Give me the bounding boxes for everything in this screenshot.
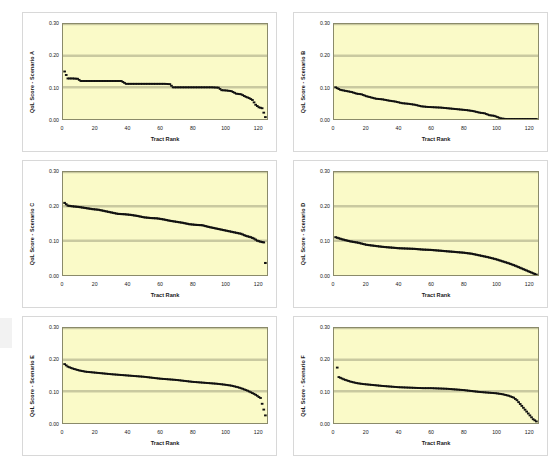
series-canvas: [63, 328, 267, 423]
x-tick-label: 0: [332, 429, 335, 435]
data-point: [264, 116, 267, 118]
x-tick-label: 120: [254, 125, 263, 131]
data-point: [516, 399, 519, 401]
x-tick-label: 120: [525, 281, 534, 287]
y-tick-label: 0.30: [310, 324, 330, 330]
x-tick-label: 120: [254, 281, 263, 287]
plot-wrapper: 0.000.100.200.30020406080100120Tract Ran…: [39, 325, 270, 447]
y-tick-label: 0.10: [39, 389, 59, 395]
panel-inner: QoL Score - Scenario A0.000.100.200.3002…: [23, 13, 276, 151]
data-point: [251, 99, 254, 101]
x-tick-label: 80: [190, 429, 196, 435]
chart-panel-e: QoL Score - Scenario E0.000.100.200.3002…: [22, 316, 277, 456]
data-series: [334, 236, 537, 275]
x-tick-label: 0: [61, 281, 64, 287]
y-tick-label: 0.30: [39, 168, 59, 174]
y-tick-label: 0.30: [310, 20, 330, 26]
data-point: [522, 407, 525, 409]
data-point: [262, 112, 265, 114]
panel-inner: QoL Score - Scenario C0.000.100.200.3002…: [23, 161, 276, 307]
series-canvas: [334, 172, 538, 275]
plot-wrapper: 0.000.100.200.30020406080100120Tract Ran…: [39, 169, 270, 299]
y-tick-label: 0.30: [310, 168, 330, 174]
x-tick-label: 60: [157, 429, 163, 435]
x-axis-label: Tract Rank: [333, 136, 539, 142]
x-tick-label: 100: [492, 281, 501, 287]
x-tick-label: 40: [396, 125, 402, 131]
x-tick-label: 60: [157, 281, 163, 287]
data-point: [520, 405, 523, 407]
x-tick-label: 80: [190, 281, 196, 287]
series-canvas: [334, 328, 538, 423]
y-axis-label-text: QoL Score - Scenario F: [300, 355, 306, 417]
plot-wrapper: 0.000.100.200.30020406080100120Tract Ran…: [39, 21, 270, 143]
chart-panel-a: QoL Score - Scenario A0.000.100.200.3002…: [22, 12, 277, 152]
y-axis-label: QoL Score - Scenario A: [25, 13, 39, 151]
y-axis-label: QoL Score - Scenario B: [296, 13, 310, 151]
chart-panel-f: QoL Score - Scenario F0.000.100.200.3002…: [293, 316, 548, 456]
x-tick-label: 60: [157, 125, 163, 131]
y-axis-label-text: QoL Score - Scenario B: [300, 51, 306, 113]
y-tick-label: 0.30: [39, 20, 59, 26]
x-tick-label: 80: [461, 281, 467, 287]
series-canvas: [63, 24, 267, 119]
series-canvas: [334, 24, 538, 119]
x-tick-label: 40: [396, 281, 402, 287]
y-tick-label: 0.20: [310, 203, 330, 209]
data-point: [261, 107, 264, 109]
x-axis-label: Tract Rank: [62, 440, 268, 446]
x-tick-label: 60: [428, 125, 434, 131]
panel-inner: QoL Score - Scenario F0.000.100.200.3002…: [294, 317, 547, 455]
data-point: [519, 403, 522, 405]
y-tick-label: 0.10: [39, 238, 59, 244]
x-tick-label: 0: [332, 125, 335, 131]
x-tick-label: 100: [221, 125, 230, 131]
data-point: [530, 416, 533, 418]
x-tick-label: 40: [125, 281, 131, 287]
data-point: [524, 409, 527, 411]
y-tick-label: 0.20: [39, 52, 59, 58]
data-series: [334, 86, 537, 119]
x-tick-label: 80: [461, 125, 467, 131]
y-tick-label: 0.10: [310, 85, 330, 91]
y-tick-label: 0.00: [39, 421, 59, 427]
data-point: [517, 401, 520, 403]
data-point: [535, 420, 538, 422]
plot-area: [62, 171, 268, 276]
data-series: [63, 71, 266, 119]
y-tick-label: 0.00: [310, 421, 330, 427]
y-tick-label: 0.20: [39, 356, 59, 362]
y-axis-label-text: QoL Score - Scenario C: [29, 203, 35, 265]
data-point: [264, 414, 267, 416]
x-tick-label: 80: [190, 125, 196, 131]
y-tick-label: 0.30: [39, 324, 59, 330]
plot-area: [62, 327, 268, 424]
data-series: [336, 367, 538, 423]
x-axis-label: Tract Rank: [333, 292, 539, 298]
data-point: [63, 71, 66, 73]
y-axis-label: QoL Score - Scenario F: [296, 317, 310, 455]
x-tick-label: 100: [492, 429, 501, 435]
plot-area: [333, 171, 539, 276]
plot-area: [62, 23, 268, 120]
y-tick-label: 0.00: [39, 117, 59, 123]
x-tick-label: 60: [428, 281, 434, 287]
x-tick-label: 40: [125, 429, 131, 435]
x-tick-label: 80: [461, 429, 467, 435]
y-tick-label: 0.10: [310, 389, 330, 395]
x-tick-label: 20: [363, 125, 369, 131]
data-point: [65, 74, 68, 76]
y-axis-label: QoL Score - Scenario E: [25, 317, 39, 455]
y-tick-label: 0.00: [39, 273, 59, 279]
x-tick-label: 20: [363, 281, 369, 287]
series-canvas: [63, 172, 267, 275]
x-tick-label: 120: [525, 429, 534, 435]
plot-area: [333, 327, 539, 424]
data-point: [336, 367, 339, 369]
panel-inner: QoL Score - Scenario D0.000.100.200.3002…: [294, 161, 547, 307]
x-tick-label: 20: [363, 429, 369, 435]
data-series: [63, 363, 266, 416]
x-tick-label: 100: [492, 125, 501, 131]
y-axis-label: QoL Score - Scenario D: [296, 161, 310, 307]
data-point: [264, 262, 267, 264]
